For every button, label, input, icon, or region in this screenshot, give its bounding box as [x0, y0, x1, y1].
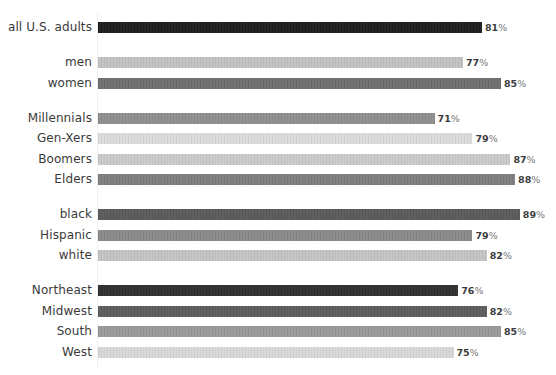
category-label: Elders — [54, 171, 92, 188]
value-label: 81% — [485, 20, 507, 35]
category-label: Millennials — [28, 110, 92, 127]
value-label: 82% — [490, 248, 512, 263]
category-label: women — [48, 75, 92, 92]
bar-row-black: black 89% — [0, 209, 556, 221]
value-label: 88% — [518, 172, 540, 187]
bar — [98, 57, 463, 68]
value-label: 77% — [466, 55, 488, 70]
bar — [98, 326, 501, 337]
bar — [98, 133, 472, 144]
bar-row-west: West 75% — [0, 347, 556, 359]
bar — [98, 285, 458, 296]
bar — [98, 154, 510, 165]
bar — [98, 113, 435, 124]
bar-row-elders: Elders 88% — [0, 174, 556, 186]
value-label: 82% — [490, 304, 512, 319]
bar-row-gen-xers: Gen-Xers 79% — [0, 133, 556, 145]
bar-row-hispanic: Hispanic 79% — [0, 230, 556, 242]
category-label: Midwest — [42, 303, 92, 320]
category-label: all U.S. adults — [8, 19, 92, 36]
bar — [98, 22, 482, 33]
bar-row-all-us-adults: all U.S. adults 81% — [0, 22, 556, 34]
value-label: 85% — [504, 76, 526, 91]
value-label: 87% — [513, 152, 535, 167]
value-label: 79% — [475, 131, 497, 146]
category-label: white — [59, 247, 92, 264]
value-label: 71% — [438, 111, 460, 126]
bar — [98, 347, 454, 358]
value-label: 89% — [523, 207, 545, 222]
bar-row-northeast: Northeast 76% — [0, 285, 556, 297]
bar-row-midwest: Midwest 82% — [0, 306, 556, 318]
bar-row-boomers: Boomers 87% — [0, 154, 556, 166]
bar-row-white: white 82% — [0, 250, 556, 262]
category-label: Gen-Xers — [37, 130, 92, 147]
value-label: 79% — [475, 228, 497, 243]
bar — [98, 209, 520, 220]
bar-row-south: South 85% — [0, 326, 556, 338]
category-label: West — [62, 344, 92, 361]
bar — [98, 230, 472, 241]
value-label: 85% — [504, 324, 526, 339]
value-label: 76% — [461, 283, 483, 298]
value-label: 75% — [457, 345, 479, 360]
bar-row-millennials: Millennials 71% — [0, 113, 556, 125]
category-label: men — [65, 54, 92, 71]
bar — [98, 306, 487, 317]
horizontal-bar-chart: all U.S. adults 81% men 77% women 85% Mi… — [0, 0, 556, 375]
category-label: Boomers — [38, 151, 92, 168]
category-label: South — [57, 323, 92, 340]
bar — [98, 174, 515, 185]
bar — [98, 78, 501, 89]
bar-row-women: women 85% — [0, 78, 556, 90]
bar-row-men: men 77% — [0, 57, 556, 69]
category-label: Hispanic — [40, 227, 92, 244]
category-label: Northeast — [32, 282, 92, 299]
bar — [98, 250, 487, 261]
category-label: black — [60, 206, 92, 223]
